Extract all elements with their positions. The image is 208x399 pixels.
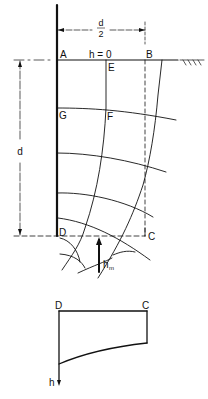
point-A-label: A (60, 49, 67, 60)
arrow-right-icon (139, 28, 145, 32)
equipotential-4 (58, 218, 150, 260)
point-F-label: F (107, 111, 113, 122)
dimension-d-denominator: 2 (98, 29, 103, 39)
max-head-label: h (103, 259, 109, 270)
point-B-label: B (146, 49, 153, 60)
equipotential-8 (113, 251, 135, 255)
diagram-point-D-label: D (55, 300, 62, 311)
arrow-left-icon (58, 28, 64, 32)
point-D-label: D (59, 227, 66, 238)
arrow-down-icon (18, 229, 22, 235)
ground-hatch-icon (180, 60, 204, 65)
arrow-up-icon (18, 61, 22, 67)
head-distribution-curve (59, 343, 147, 364)
diagram-point-C-label: C (142, 300, 149, 311)
head-axis-label: h (49, 377, 55, 388)
point-C-label: C (148, 231, 155, 242)
flow-line-2 (98, 60, 162, 278)
point-E-label: E (108, 62, 115, 73)
point-G-label: G (59, 110, 67, 121)
dimension-d-numerator: d (98, 18, 103, 28)
flow-net-figure: d 2 A h = 0 B E G F d D C h m D C h (0, 0, 208, 399)
equipotential-6 (60, 254, 85, 268)
depth-d-label: d (17, 146, 23, 157)
max-head-subscript: m (109, 265, 114, 271)
surface-head-label: h = 0 (89, 49, 112, 60)
arrow-down-icon (57, 380, 61, 386)
arrow-up-icon (96, 237, 102, 245)
equipotential-GF (57, 108, 176, 120)
